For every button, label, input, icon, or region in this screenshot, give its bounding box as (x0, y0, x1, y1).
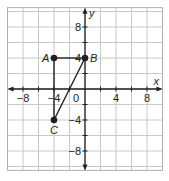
y-tick-label: −8 (68, 145, 81, 157)
x-tick-label: 4 (113, 92, 119, 104)
x-axis-right-arrow-icon (157, 87, 163, 92)
x-tick-label: −4 (48, 92, 61, 104)
y-axis-up-arrow-icon (83, 8, 88, 14)
x-tick-label: 8 (144, 92, 150, 104)
y-tick-label: −4 (68, 114, 81, 126)
x-axis-label: x (153, 75, 160, 87)
point-b (82, 55, 89, 62)
point-label-b: B (90, 52, 97, 64)
y-tick-label: 8 (75, 21, 81, 33)
point-label-a: A (41, 52, 49, 64)
y-tick-label: 4 (75, 52, 81, 64)
axes (8, 8, 163, 171)
point-a (51, 55, 58, 62)
origin-label: 0 (73, 92, 79, 104)
point-c (51, 117, 58, 124)
y-axis-label: y (88, 7, 96, 19)
x-axis-left-arrow-icon (8, 87, 14, 92)
coordinate-plane: ABC−8−44884−4−80xy (0, 0, 169, 181)
x-tick-label: −8 (17, 92, 30, 104)
point-label-c: C (50, 124, 58, 136)
y-axis-down-arrow-icon (83, 164, 88, 170)
